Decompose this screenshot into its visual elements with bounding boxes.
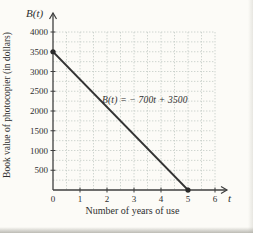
x-axis-symbol: t <box>228 192 231 204</box>
x-tick-label: 2 <box>105 194 110 204</box>
x-tick-label: 6 <box>213 194 218 204</box>
data-point-marker <box>185 187 190 192</box>
y-tick-label: 1000 <box>30 146 49 156</box>
depreciation-line-chart: 50010001500200025003000350040000123456 B… <box>0 0 253 233</box>
x-tick-label: 0 <box>51 194 56 204</box>
y-tick-label: 4000 <box>30 27 49 37</box>
chart-canvas: 50010001500200025003000350040000123456 <box>0 0 253 233</box>
page-scan-edge <box>248 0 253 233</box>
x-tick-label: 3 <box>132 194 137 204</box>
data-point-marker <box>50 49 55 54</box>
y-tick-label: 3000 <box>30 67 49 77</box>
x-tick-label: 4 <box>159 194 164 204</box>
y-axis-symbol: B(t) <box>26 7 43 19</box>
line-equation-annotation: B(t) = − 700t + 3500 <box>102 95 188 105</box>
x-tick-label: 5 <box>186 194 191 204</box>
y-tick-label: 500 <box>35 165 49 175</box>
page-scan-shadow <box>0 227 253 233</box>
x-axis-caption: Number of years of use <box>40 205 225 216</box>
y-axis-caption: Book value of photocopier (in dollars) <box>2 14 12 196</box>
y-tick-label: 2500 <box>30 86 49 96</box>
y-tick-label: 1500 <box>30 126 49 136</box>
x-tick-label: 1 <box>78 194 83 204</box>
y-tick-label: 3500 <box>30 47 49 57</box>
y-tick-label: 2000 <box>30 106 49 116</box>
